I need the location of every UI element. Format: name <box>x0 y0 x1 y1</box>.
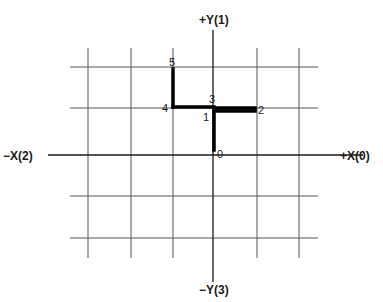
grid-horizontal-lines <box>70 67 318 238</box>
axis-label-pos-y: +Y(1) <box>199 13 229 27</box>
axis-label-neg-y: −Y(3) <box>199 283 229 297</box>
point-label-4: 4 <box>162 102 168 114</box>
point-label-1: 1 <box>203 111 209 123</box>
point-label-5: 5 <box>169 56 175 68</box>
point-label-2: 2 <box>258 104 264 116</box>
axis-label-pos-x: +X(0) <box>340 149 370 163</box>
point-label-0: 0 <box>217 148 223 160</box>
path-segments <box>173 69 255 150</box>
axis-label-neg-x: −X(2) <box>3 149 33 163</box>
coordinate-diagram: 0 1 2 3 4 5 +Y(1) −Y(3) −X(2) +X(0) <box>0 0 383 302</box>
grid-vertical-lines <box>88 48 299 258</box>
point-label-3: 3 <box>209 93 215 105</box>
